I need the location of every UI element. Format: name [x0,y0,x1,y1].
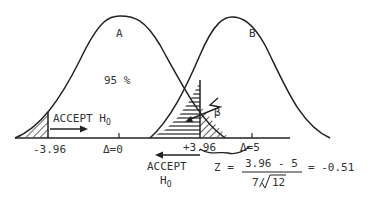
curve-a-label: A [116,28,123,39]
accept-h0-left: ACCEPT HO [53,113,111,124]
accept-h0-right-line2: HO [160,175,171,186]
left-cut-label: -3.96 [33,144,66,155]
formula-lhs: Z = [214,162,234,173]
arrow-left-icon [155,152,163,159]
delta-five-label: Δ=5 [240,142,260,153]
formula-denominator-prefix: 7/ [252,177,265,188]
curve-b-label: B [249,28,256,39]
formula-numerator: 3.96 - 5 [245,158,298,169]
formula-result: = -0.51 [308,162,354,173]
arrow-right-icon [80,126,88,133]
right-cut-label: +3.96 [183,142,216,153]
area-label: 95 % [104,75,131,86]
formula-denominator-root: 12 [272,177,285,188]
delta-zero-label: Δ=0 [103,144,123,155]
accept-h0-right-line1: ACCEPT [147,161,187,172]
beta-label: β [214,107,221,118]
